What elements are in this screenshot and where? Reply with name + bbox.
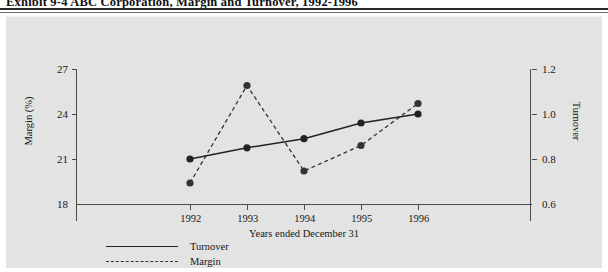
turnover-data-point [186, 155, 193, 162]
chart-panel: Margin (%) Turnover Years ended December… [6, 16, 602, 268]
legend-swatch-dashed-line-icon [106, 261, 178, 262]
margin-data-point [186, 179, 193, 186]
series-layer [6, 17, 602, 269]
legend-swatch-solid-line-icon [106, 246, 178, 247]
legend-label-margin: Margin [190, 254, 221, 269]
margin-points [186, 82, 421, 187]
turnover-data-point [243, 144, 250, 151]
turnover-data-point [300, 135, 307, 142]
turnover-data-point [357, 119, 364, 126]
margin-data-point [243, 82, 250, 89]
title-rule-thick [0, 8, 608, 10]
turnover-points [186, 110, 421, 162]
margin-data-point [357, 142, 364, 149]
title-rule-thin [0, 12, 608, 13]
margin-data-point [414, 100, 421, 107]
turnover-data-point [414, 110, 421, 117]
plot-area: Margin (%) Turnover Years ended December… [6, 17, 602, 268]
chart-screenshot: Exhibit 9-4 ABC Corporation, Margin and … [0, 0, 608, 272]
legend-label-turnover: Turnover [190, 239, 229, 254]
margin-data-point [300, 167, 307, 174]
title-block: Exhibit 9-4 ABC Corporation, Margin and … [0, 0, 608, 14]
